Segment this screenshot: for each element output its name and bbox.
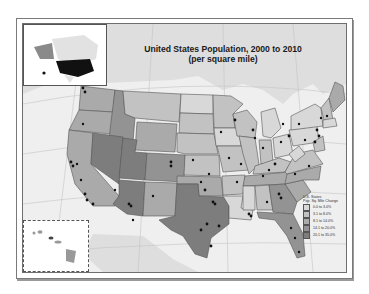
map-frame: United States Population, 2000 to 2010 (… <box>22 23 347 273</box>
legend-swatch <box>303 204 310 211</box>
legend-label: 3.1 to 8.0% <box>313 212 331 216</box>
hawaii-map <box>24 221 88 271</box>
legend-swatch <box>303 218 310 225</box>
locator-map <box>24 25 106 85</box>
state-wa <box>79 86 115 112</box>
legend-item: 14.1 to 20.0% <box>303 225 347 232</box>
map-title: United States Population, 2000 to 2010 (… <box>123 44 323 64</box>
legend-label: 20.1 to 35.0% <box>313 233 335 237</box>
map-layout-frame: United States Population, 2000 to 2010 (… <box>16 18 353 279</box>
legend-swatch <box>303 211 310 218</box>
alaska-locator-inset <box>23 24 107 86</box>
legend-label: 8.1 to 14.0% <box>313 219 333 223</box>
state-ne <box>177 133 218 154</box>
legend-item: 8.1 to 14.0% <box>303 218 347 225</box>
state-ar <box>222 175 245 195</box>
map-title-line1: United States Population, 2000 to 2010 <box>123 44 323 54</box>
state-sd <box>179 113 214 134</box>
state-ma-ct-ri <box>323 118 337 128</box>
legend-item: 0.0 to 3.0% <box>303 204 347 211</box>
state-ks <box>184 155 220 176</box>
state-nd <box>180 94 213 114</box>
map-legend: U.S. States Pop. Sq. Mile Change 0.0 to … <box>303 195 347 239</box>
state-ms <box>243 186 255 210</box>
legend-swatch <box>303 225 310 232</box>
legend-label: 14.1 to 20.0% <box>313 226 335 230</box>
hawaii-inset <box>23 220 89 272</box>
legend-item: 3.1 to 8.0% <box>303 211 347 218</box>
legend-label: 0.0 to 3.0% <box>313 205 331 209</box>
map-title-line2: (per square mile) <box>123 54 323 64</box>
state-nm <box>143 182 177 216</box>
legend-item: 20.1 to 35.0% <box>303 232 347 239</box>
state-wy <box>135 122 177 152</box>
legend-swatch <box>303 232 310 239</box>
